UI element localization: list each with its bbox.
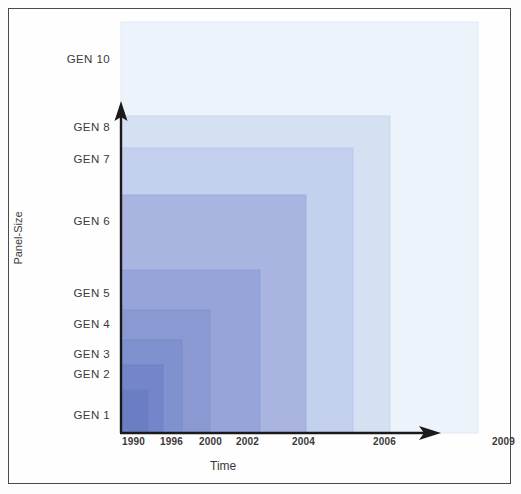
y-tick-gen6: GEN 6 — [73, 215, 110, 227]
x-tick-2004: 2004 — [292, 436, 315, 447]
generation-rect-gen1 — [121, 390, 148, 433]
x-tick-2009: 2009 — [492, 436, 515, 447]
y-tick-gen7: GEN 7 — [73, 153, 110, 165]
y-axis-tick-labels: GEN 10 GEN 8 GEN 7 GEN 6 GEN 5 GEN 4 GEN… — [38, 0, 110, 494]
y-tick-gen4: GEN 4 — [73, 318, 110, 330]
x-tick-2000: 2000 — [199, 436, 222, 447]
generation-rectangles — [121, 22, 478, 433]
figure-page: recognition, which at that ed developmen… — [0, 0, 521, 494]
y-tick-gen5: GEN 5 — [73, 287, 110, 299]
x-tick-1990: 1990 — [122, 436, 145, 447]
y-tick-gen1: GEN 1 — [73, 409, 110, 421]
y-tick-gen3: GEN 3 — [73, 348, 110, 360]
y-axis-title: Panel-Size — [12, 198, 24, 278]
y-tick-gen8: GEN 8 — [73, 121, 110, 133]
y-tick-gen2: GEN 2 — [73, 368, 110, 380]
x-axis-title: Time — [210, 459, 236, 473]
x-tick-2006: 2006 — [373, 436, 396, 447]
y-tick-gen10: GEN 10 — [67, 53, 110, 65]
x-tick-2002: 2002 — [236, 436, 259, 447]
x-tick-1996: 1996 — [160, 436, 183, 447]
